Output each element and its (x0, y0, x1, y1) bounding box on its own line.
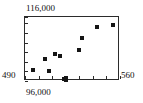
x-axis-tick (106, 76, 107, 79)
x-axis-tick (120, 76, 121, 79)
y-axis-tick (25, 17, 28, 18)
data-point-marker (64, 76, 68, 80)
data-point-marker (58, 54, 62, 58)
x-axis-tick (93, 76, 94, 79)
plot-frame (24, 16, 119, 80)
data-point-marker (77, 48, 81, 52)
data-point-marker (53, 52, 57, 56)
x-axis-min-label: 490 (2, 70, 16, 80)
y-axis-tick (25, 71, 28, 72)
y-axis-max-label: 116,000 (26, 3, 55, 13)
x-axis-max-label: 560 (121, 70, 135, 80)
scatter-plot-figure: 116,000 96,000 490 560 (0, 0, 143, 103)
data-point-marker (47, 69, 51, 73)
y-axis-min-label: 96,000 (26, 87, 51, 97)
y-axis-tick (25, 43, 28, 44)
x-axis-tick (39, 76, 40, 79)
data-point-marker (95, 25, 99, 29)
y-axis-tick (25, 23, 28, 24)
y-axis-tick (25, 33, 28, 34)
x-axis-tick (25, 76, 26, 79)
y-axis-tick (25, 62, 28, 63)
x-axis-tick (79, 76, 80, 79)
data-point-marker (80, 36, 84, 40)
y-axis-tick (25, 81, 28, 82)
data-point-marker (43, 57, 47, 61)
y-axis-tick (25, 52, 28, 53)
plot-area (25, 17, 118, 79)
x-axis-tick (52, 76, 53, 79)
data-point-marker (31, 68, 35, 72)
data-point-marker (111, 23, 115, 27)
